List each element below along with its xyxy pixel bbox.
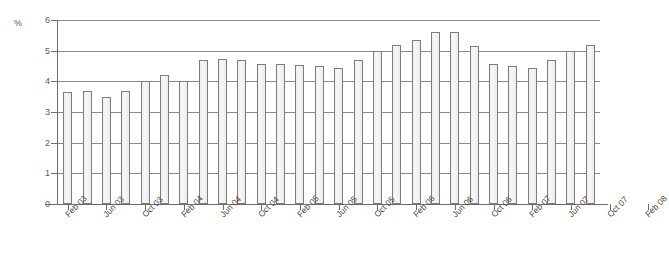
bar xyxy=(392,45,401,204)
bar xyxy=(295,65,304,204)
bar xyxy=(431,32,440,204)
gridline xyxy=(58,51,600,52)
bar xyxy=(199,60,208,204)
bar xyxy=(141,81,150,204)
bar xyxy=(412,40,421,204)
y-axis-tick-label: 4 xyxy=(45,77,50,86)
y-axis-tick-label: 1 xyxy=(45,169,50,178)
x-axis-tick-label: Feb 08 xyxy=(643,193,669,219)
plot-area xyxy=(58,20,600,204)
bar xyxy=(315,66,324,204)
bar xyxy=(489,64,498,204)
bar xyxy=(218,59,227,204)
y-axis-tick-labels: 0123456 xyxy=(26,20,50,204)
y-axis-tick-mark xyxy=(51,51,57,52)
bar xyxy=(566,51,575,204)
bar xyxy=(257,64,266,204)
bar xyxy=(354,60,363,204)
bar xyxy=(373,51,382,204)
bar xyxy=(179,81,188,204)
y-axis-tick-mark xyxy=(51,143,57,144)
gridline xyxy=(58,173,600,174)
bar xyxy=(102,97,111,204)
gridline xyxy=(58,81,600,82)
bar xyxy=(450,32,459,204)
y-axis-tick-mark xyxy=(51,173,57,174)
bar xyxy=(470,46,479,204)
bar xyxy=(586,45,595,204)
x-axis-tick-label: Oct 07 xyxy=(605,194,630,219)
x-axis-line xyxy=(45,204,608,205)
bar xyxy=(121,91,130,204)
y-axis-tick-label: 2 xyxy=(45,138,50,147)
y-axis-tick-mark xyxy=(51,204,57,205)
bar xyxy=(334,68,343,204)
bar xyxy=(83,91,92,204)
y-axis-tick-mark xyxy=(51,81,57,82)
y-axis-unit-label: % xyxy=(14,18,22,28)
y-axis-tick-label: 6 xyxy=(45,16,50,25)
bar xyxy=(160,75,169,204)
gridline xyxy=(58,112,600,113)
y-axis-tick-mark xyxy=(51,20,57,21)
bar xyxy=(547,60,556,204)
bar xyxy=(528,68,537,204)
y-axis-tick-mark xyxy=(51,112,57,113)
bar xyxy=(508,66,517,204)
y-axis-tick-label: 5 xyxy=(45,46,50,55)
gridline xyxy=(58,20,600,21)
bar xyxy=(237,60,246,204)
bar xyxy=(63,92,72,204)
gridline xyxy=(58,143,600,144)
bar xyxy=(276,64,285,204)
y-axis-tick-label: 3 xyxy=(45,108,50,117)
